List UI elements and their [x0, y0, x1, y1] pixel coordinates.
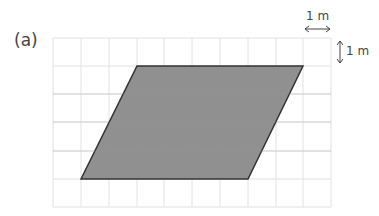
- grid-diagram: [0, 0, 379, 216]
- vertical-scale-label: 1 m: [346, 44, 369, 58]
- horizontal-scale-arrow-icon: [305, 26, 330, 32]
- parallelogram: [81, 66, 303, 179]
- horizontal-scale-label: 1 m: [306, 9, 329, 23]
- vertical-scale-arrow-icon: [337, 41, 343, 63]
